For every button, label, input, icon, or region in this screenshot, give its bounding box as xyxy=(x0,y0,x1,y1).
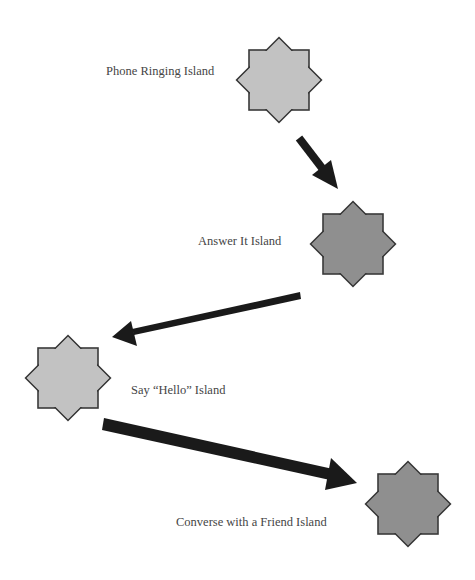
star-icon-answer-it-island xyxy=(311,202,396,287)
star-icon-phone-ringing-island xyxy=(237,38,322,123)
arrow-icon-phone-to-answer xyxy=(299,138,338,189)
island-label-say-hello: Say “Hello” Island xyxy=(131,383,225,397)
star-icon-say-hello-island xyxy=(26,336,111,421)
star-icon-converse-island xyxy=(366,462,451,547)
island-label-converse: Converse with a Friend Island xyxy=(176,515,327,529)
island-label-answer-it: Answer It Island xyxy=(198,234,281,248)
island-label-phone-ringing: Phone Ringing Island xyxy=(106,64,214,78)
arrow-icon-hello-to-converse xyxy=(102,418,357,490)
island-flow-diagram xyxy=(0,0,475,580)
arrow-icon-answer-to-hello xyxy=(112,292,301,346)
